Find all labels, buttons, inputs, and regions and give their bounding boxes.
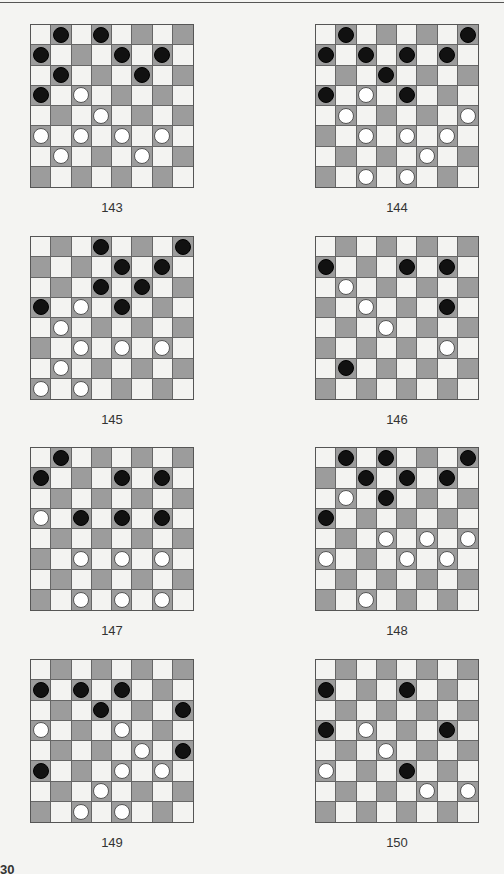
board-square [458,761,478,781]
board-square [92,45,112,65]
white-checker-piece [358,128,374,144]
board-square [377,338,397,358]
board-square [31,660,51,680]
board-square [153,761,173,781]
board-square [153,590,173,610]
board-square [51,379,71,399]
board-square [51,802,71,822]
puzzle-number: 143 [30,200,194,215]
board-square [153,509,173,529]
board-square [51,529,71,549]
board-square [132,509,152,529]
board-square [397,802,417,822]
board-square [92,570,112,590]
black-checker-piece [93,239,109,255]
board-square [132,570,152,590]
puzzle-144: 144 [315,24,479,215]
board-square [316,590,336,610]
board-square [72,761,92,781]
board-square [132,45,152,65]
board-square [51,570,71,590]
board-square [31,106,51,126]
board-square [438,721,458,741]
board-square [92,167,112,187]
board-square [357,379,377,399]
board-square [132,660,152,680]
white-checker-piece [460,108,476,124]
board-square [438,680,458,700]
checkers-board [315,236,479,400]
board-square [173,489,193,509]
board-square [153,318,173,338]
board-square [336,257,356,277]
board-square [153,489,173,509]
board-square [112,167,132,187]
board-square [458,278,478,298]
board-square [397,278,417,298]
board-square [417,237,437,257]
board-square [316,379,336,399]
black-checker-piece [53,27,69,43]
board-square [92,549,112,569]
board-square [377,489,397,509]
board-square [31,570,51,590]
board-square [458,318,478,338]
black-checker-piece [338,450,354,466]
board-square [92,298,112,318]
board-square [316,45,336,65]
board-square [72,701,92,721]
board-square [132,167,152,187]
black-checker-piece [33,299,49,315]
black-checker-piece [318,510,334,526]
board-square [72,802,92,822]
board-square [417,529,437,549]
board-square [112,106,132,126]
board-square [72,680,92,700]
board-square [336,318,356,338]
board-square [336,237,356,257]
white-checker-piece [358,299,374,315]
board-square [112,529,132,549]
board-square [112,359,132,379]
board-square [112,147,132,167]
white-checker-piece [460,783,476,799]
board-square [153,448,173,468]
board-square [336,379,356,399]
board-square [458,741,478,761]
board-square [153,147,173,167]
puzzle-143: 143 [30,24,194,215]
board-square [112,318,132,338]
black-checker-piece [399,87,415,103]
board-square [92,802,112,822]
board-square [112,721,132,741]
black-checker-piece [338,360,354,376]
board-square [132,338,152,358]
board-square [438,25,458,45]
black-checker-piece [93,279,109,295]
board-square [31,257,51,277]
board-square [357,782,377,802]
board-square [357,468,377,488]
black-checker-piece [33,682,49,698]
board-square [112,448,132,468]
board-square [397,549,417,569]
board-square [72,45,92,65]
board-square [112,237,132,257]
board-square [153,237,173,257]
board-square [132,741,152,761]
board-square [112,126,132,146]
board-square [92,278,112,298]
board-square [112,489,132,509]
board-square [132,529,152,549]
board-square [316,359,336,379]
board-square [132,257,152,277]
board-square [417,660,437,680]
board-square [72,278,92,298]
black-checker-piece [399,470,415,486]
board-square [173,25,193,45]
board-square [397,529,417,549]
board-square [31,448,51,468]
board-square [336,338,356,358]
board-square [438,86,458,106]
board-square [92,701,112,721]
